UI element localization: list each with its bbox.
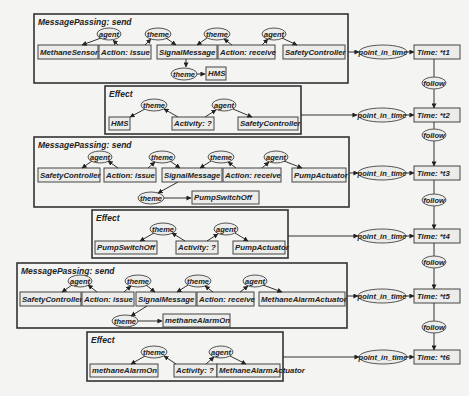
- svg-text:agent: agent: [99, 30, 120, 39]
- svg-text:point_in_time: point_in_time: [358, 353, 408, 362]
- context-message-passing-2: MessagePassing: send agent theme theme a…: [34, 137, 349, 207]
- svg-text:PumpActuator: PumpActuator: [294, 171, 349, 180]
- context-effect-1: Effect theme agent HMS Activity: ? Safet…: [105, 86, 302, 134]
- svg-text:methaneAlarmOn: methaneAlarmOn: [92, 366, 157, 375]
- svg-text:Action: receive: Action: receive: [219, 48, 277, 57]
- svg-text:PumpSwitchOff: PumpSwitchOff: [97, 243, 156, 252]
- svg-text:agent: agent: [245, 277, 266, 286]
- svg-text:SafetyController: SafetyController: [40, 171, 102, 180]
- svg-text:SafetyController: SafetyController: [285, 48, 347, 57]
- svg-text:theme: theme: [152, 225, 174, 234]
- svg-text:Action: receive: Action: receive: [224, 171, 282, 180]
- svg-text:theme: theme: [143, 348, 165, 357]
- svg-text:agent: agent: [70, 277, 91, 286]
- svg-text:HMS: HMS: [111, 119, 129, 128]
- svg-text:methaneAlarmOn: methaneAlarmOn: [165, 316, 230, 325]
- svg-text:Time: *t2: Time: *t2: [417, 111, 450, 120]
- svg-text:Time: *t4: Time: *t4: [417, 232, 450, 241]
- context-message-passing-3: MessagePassing: send agent theme theme a…: [17, 263, 348, 328]
- svg-text:Action: issue: Action: issue: [105, 171, 156, 180]
- svg-text:Effect: Effect: [91, 335, 116, 345]
- svg-text:theme: theme: [151, 153, 173, 162]
- svg-text:follow: follow: [423, 323, 446, 332]
- svg-text:Time: *t6: Time: *t6: [417, 353, 450, 362]
- svg-text:point_in_time: point_in_time: [357, 232, 407, 241]
- svg-text:point_in_time: point_in_time: [358, 48, 408, 57]
- svg-text:PumpActuator: PumpActuator: [235, 243, 290, 252]
- svg-text:theme: theme: [206, 30, 228, 39]
- svg-text:follow: follow: [423, 79, 446, 88]
- svg-text:point_in_time: point_in_time: [357, 292, 407, 301]
- svg-text:theme: theme: [173, 70, 195, 79]
- svg-text:Action: receive: Action: receive: [198, 295, 256, 304]
- svg-text:agent: agent: [266, 153, 287, 162]
- svg-text:theme: theme: [210, 153, 232, 162]
- svg-text:agent: agent: [264, 30, 285, 39]
- svg-text:Activity: ?: Activity: ?: [173, 119, 212, 128]
- svg-text:point_in_time: point_in_time: [357, 111, 407, 120]
- svg-text:Effect: Effect: [109, 89, 134, 99]
- svg-text:SafetyController: SafetyController: [22, 295, 84, 304]
- svg-text:follow: follow: [423, 196, 446, 205]
- svg-text:follow: follow: [423, 258, 446, 267]
- svg-text:Time: *t3: Time: *t3: [417, 169, 450, 178]
- svg-text:MethaneAlarmActuator: MethaneAlarmActuator: [261, 295, 348, 304]
- svg-text:theme: theme: [127, 277, 149, 286]
- svg-text:Time: *t5: Time: *t5: [417, 292, 450, 301]
- svg-text:theme: theme: [147, 30, 169, 39]
- svg-text:SafetyController: SafetyController: [240, 119, 302, 128]
- svg-text:agent: agent: [216, 225, 237, 234]
- conceptual-graph-diagram: MessagePassing: send agent theme theme a…: [0, 0, 469, 396]
- svg-text:SignalMessage: SignalMessage: [159, 48, 216, 57]
- svg-text:Time: *t1: Time: *t1: [417, 48, 450, 57]
- svg-text:agent: agent: [90, 153, 111, 162]
- svg-text:agent: agent: [214, 101, 235, 110]
- svg-text:MethaneSensor: MethaneSensor: [40, 48, 99, 57]
- svg-text:agent: agent: [211, 348, 232, 357]
- context-effect-2: Effect theme agent PumpSwitchOff Activit…: [92, 210, 290, 258]
- context-effect-3: Effect theme agent methaneAlarmOn Activi…: [87, 332, 306, 381]
- svg-text:theme: theme: [140, 194, 162, 203]
- svg-text:MethaneAlarmActuator: MethaneAlarmActuator: [219, 366, 306, 375]
- svg-text:MessagePassing: send: MessagePassing: send: [38, 140, 132, 150]
- svg-text:Activity: ?: Activity: ?: [175, 366, 214, 375]
- svg-text:Action: issue: Action: issue: [100, 48, 151, 57]
- svg-text:HMS: HMS: [208, 69, 226, 78]
- context-message-passing-1: MessagePassing: send agent theme theme a…: [34, 14, 348, 83]
- svg-text:theme: theme: [143, 101, 165, 110]
- svg-text:point_in_time: point_in_time: [357, 169, 407, 178]
- svg-text:Activity: ?: Activity: ?: [177, 243, 216, 252]
- svg-text:Action: issue: Action: issue: [83, 295, 134, 304]
- svg-text:Effect: Effect: [96, 213, 121, 223]
- svg-text:SignalMessage: SignalMessage: [164, 171, 221, 180]
- svg-text:MessagePassing: send: MessagePassing: send: [21, 266, 115, 276]
- svg-text:follow: follow: [423, 131, 446, 140]
- svg-text:PumpSwitchOff: PumpSwitchOff: [194, 193, 253, 202]
- svg-text:SignalMessage: SignalMessage: [138, 295, 195, 304]
- svg-text:theme: theme: [187, 277, 209, 286]
- svg-text:theme: theme: [114, 317, 136, 326]
- timeline: point_in_time point_in_time point_in_tim…: [283, 45, 460, 364]
- context-title: MessagePassing: send: [38, 17, 132, 27]
